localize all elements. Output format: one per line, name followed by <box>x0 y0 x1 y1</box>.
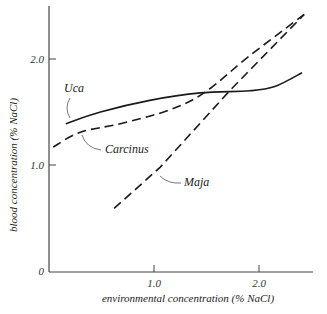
label-carcinus: Carcinus <box>105 142 149 156</box>
label-uca: Uca <box>64 81 84 95</box>
annotations: UcaCarcinusMaja <box>64 81 209 189</box>
y-tick-label: 0 <box>39 265 45 277</box>
x-tick-label: 2.0 <box>252 277 266 289</box>
uca-leader-line <box>67 98 70 118</box>
x-tick-label: 1.0 <box>147 277 161 289</box>
chart: 1.02.001.02.0 UcaCarcinusMaja environmen… <box>0 0 327 314</box>
y-tick-label: 1.0 <box>30 159 44 171</box>
y-tick-label: 2.0 <box>30 53 44 65</box>
maja-leader-line <box>160 176 181 183</box>
label-maja: Maja <box>183 175 209 189</box>
y-axis-title: blood concentration (% NaCl) <box>7 98 20 232</box>
plot-lines <box>53 14 304 208</box>
series-carcinus-line <box>53 14 304 147</box>
series-uca-line <box>66 73 302 124</box>
carcinus-leader-line <box>82 135 101 150</box>
x-axis-title: environmental concentration (% NaCl) <box>102 292 275 305</box>
